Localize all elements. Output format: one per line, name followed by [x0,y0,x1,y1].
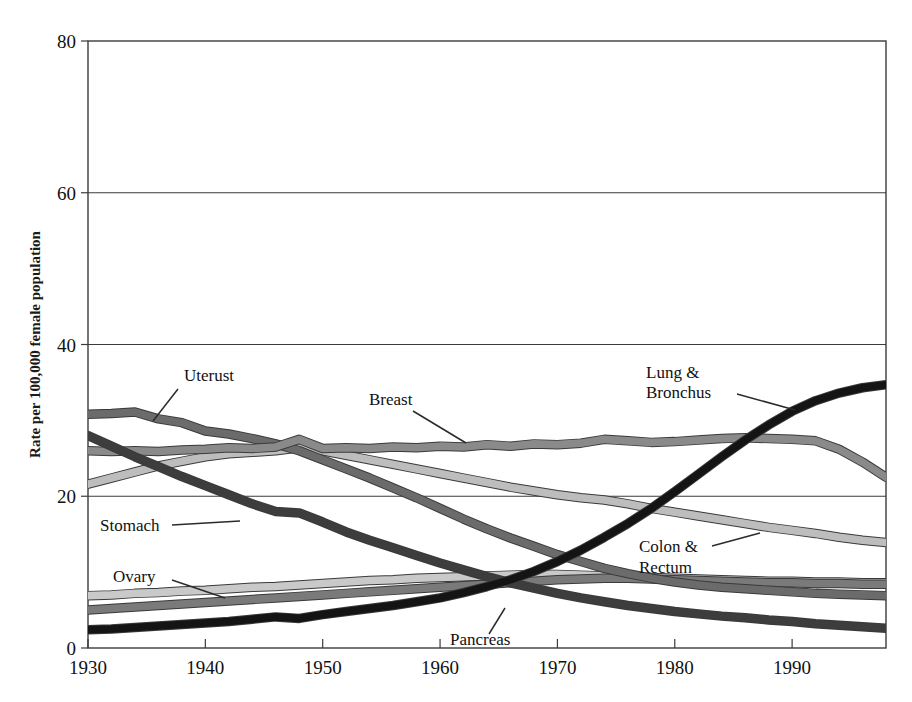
line-chart: 0204060801930194019501960197019801990Rat… [0,0,912,702]
xtick-label-1940: 1940 [186,657,224,678]
xtick-label-1930: 1930 [69,657,107,678]
annotation-label-colon: Colon & [639,537,698,556]
annotation-label-uterust: Uterust [184,366,234,385]
annotation-label-rectum: Rectum [639,558,692,577]
xtick-label-1970: 1970 [538,657,576,678]
xtick-label-1950: 1950 [304,657,342,678]
annotation-leader-4 [172,521,240,525]
xtick-label-1980: 1980 [656,657,694,678]
annotation-label-bronchus: Bronchus [646,383,711,402]
annotation-label-stomach: Stomach [100,516,160,535]
annotation-leader-3 [737,394,795,410]
annotation-label-pancreas: Pancreas [450,630,510,649]
annotation-leader-1 [413,411,466,443]
annotation-label-lung: Lung & [646,363,699,382]
xtick-label-1960: 1960 [421,657,459,678]
chart-figure: 0204060801930194019501960197019801990Rat… [0,0,912,702]
ytick-label-0: 0 [67,638,77,659]
annotation-label-breast: Breast [369,390,413,409]
y-axis-title: Rate per 100,000 female population [27,230,43,457]
ytick-label-20: 20 [57,486,76,507]
annotation-label-ovary: Ovary [113,567,156,586]
ytick-label-80: 80 [57,31,76,52]
xtick-label-1990: 1990 [773,657,811,678]
annotation-leader-5 [712,533,760,546]
ytick-label-40: 40 [57,335,76,356]
ytick-label-60: 60 [57,183,76,204]
